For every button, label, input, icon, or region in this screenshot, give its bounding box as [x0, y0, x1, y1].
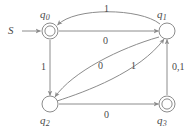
state-label-q3: q3: [157, 115, 167, 128]
state-label-q1-subscript: 1: [163, 13, 167, 22]
state-label-q1: q1: [157, 9, 167, 22]
state-label-q3-subscript: 3: [163, 119, 167, 128]
edge-label-q2-q1: 1: [131, 61, 136, 71]
state-label-q0-subscript: 0: [46, 13, 50, 22]
state-q1-outer: [159, 23, 175, 39]
state-label-q0-base: q: [40, 8, 46, 20]
start-symbol-label: S: [8, 25, 14, 36]
state-label-q1-base: q: [157, 8, 163, 20]
edge-label-q0-q2: 1: [41, 62, 46, 72]
state-label-q2-base: q: [40, 114, 46, 126]
state-q2-outer: [42, 96, 58, 112]
automaton-figure: S q0 q1 q2 q3 1 0 1 0 1 0 0,1: [0, 0, 190, 132]
state-label-q2-subscript: 2: [46, 119, 50, 128]
edge-label-q1-q2: 0: [98, 61, 103, 71]
state-label-q2: q2: [40, 115, 50, 128]
state-label-q3-base: q: [157, 114, 163, 126]
edge-label-q1-q0: 1: [104, 4, 109, 14]
state-q3-inner-accepting: [162, 99, 172, 109]
edge-label-q3-q1: 0,1: [172, 62, 185, 72]
edge-label-q0-q1: 0: [103, 36, 108, 46]
state-label-q0: q0: [40, 9, 50, 22]
state-q0-inner-accepting: [45, 26, 55, 36]
edge-q2-q1: [57, 39, 164, 101]
edge-label-q2-q3: 0: [104, 110, 109, 120]
edge-q1-q2: [55, 37, 159, 97]
